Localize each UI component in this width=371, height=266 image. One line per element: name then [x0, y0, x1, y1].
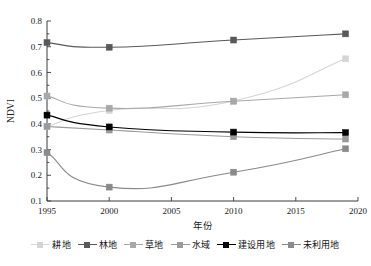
data-point-marker[interactable] — [106, 44, 112, 50]
y-tick-label: 0.8 — [31, 16, 43, 26]
series-line — [47, 34, 346, 47]
legend-label: 林地 — [99, 238, 117, 251]
legend-swatch-icon — [171, 244, 190, 245]
data-point-marker[interactable] — [231, 98, 237, 104]
legend-marker-icon — [177, 242, 183, 248]
legend-marker-icon — [37, 242, 43, 248]
series-line — [47, 149, 346, 189]
data-point-marker[interactable] — [44, 93, 50, 99]
legend-swatch-icon — [282, 244, 301, 245]
data-point-marker[interactable] — [44, 40, 50, 46]
legend-item-4[interactable]: 建设用地 — [217, 238, 275, 251]
series-草地 — [44, 92, 349, 111]
legend-item-1[interactable]: 林地 — [78, 238, 117, 251]
y-tick-label: 0.1 — [31, 196, 42, 206]
y-tick-label: 0.6 — [31, 68, 43, 78]
y-tick-label: 0.2 — [31, 170, 42, 180]
x-tick-label: 2015 — [287, 206, 306, 216]
x-axis-title: 年份 — [193, 220, 213, 231]
series-建设用地 — [44, 112, 349, 135]
data-point-marker[interactable] — [343, 31, 349, 37]
legend-item-5[interactable]: 未利用地 — [282, 238, 340, 251]
chart-legend: 耕地林地草地水域建设用地未利用地 — [0, 238, 371, 251]
legend-item-3[interactable]: 水域 — [171, 238, 210, 251]
legend-swatch-icon — [78, 244, 97, 245]
legend-marker-icon — [288, 242, 294, 248]
legend-swatch-icon — [31, 244, 50, 245]
y-axis-title: NDVI — [6, 99, 16, 123]
chart-root: 0.10.20.30.40.50.60.70.81995200020052010… — [0, 0, 371, 266]
legend-swatch-icon — [217, 244, 236, 245]
data-point-marker[interactable] — [343, 56, 349, 62]
data-point-marker[interactable] — [106, 184, 112, 190]
series-林地 — [44, 31, 349, 50]
data-point-marker[interactable] — [343, 92, 349, 98]
x-tick-label: 2000 — [100, 206, 119, 216]
data-point-marker[interactable] — [106, 105, 112, 111]
x-tick-label: 2005 — [162, 206, 181, 216]
data-point-marker[interactable] — [231, 129, 237, 135]
x-tick-label: 2010 — [225, 206, 244, 216]
data-point-marker[interactable] — [44, 123, 50, 129]
data-point-marker[interactable] — [231, 169, 237, 175]
data-point-marker[interactable] — [231, 37, 237, 43]
legend-label: 建设用地 — [238, 238, 275, 251]
series-line — [47, 59, 346, 127]
data-point-marker[interactable] — [343, 146, 349, 152]
series-未利用地 — [44, 146, 349, 190]
legend-label: 未利用地 — [303, 238, 340, 251]
data-point-marker[interactable] — [343, 130, 349, 136]
data-point-marker[interactable] — [106, 124, 112, 130]
y-tick-label: 0.3 — [31, 145, 43, 155]
series-line — [47, 115, 346, 133]
legend-swatch-icon — [124, 244, 143, 245]
y-tick-label: 0.7 — [31, 42, 43, 52]
legend-label: 草地 — [145, 238, 163, 251]
legend-marker-icon — [84, 242, 90, 248]
data-point-marker[interactable] — [44, 150, 50, 156]
series-耕地 — [44, 56, 349, 130]
x-tick-label: 2020 — [349, 206, 368, 216]
legend-marker-icon — [130, 242, 136, 248]
legend-label: 耕地 — [52, 238, 70, 251]
ndvi-line-chart: 0.10.20.30.40.50.60.70.81995200020052010… — [0, 0, 371, 238]
legend-label: 水域 — [192, 238, 210, 251]
x-tick-label: 1995 — [38, 206, 57, 216]
data-point-marker[interactable] — [44, 112, 50, 118]
y-tick-label: 0.4 — [31, 119, 43, 129]
y-tick-label: 0.5 — [31, 93, 43, 103]
legend-item-0[interactable]: 耕地 — [31, 238, 70, 251]
legend-item-2[interactable]: 草地 — [124, 238, 163, 251]
legend-marker-icon — [223, 242, 229, 248]
series-line — [47, 95, 346, 109]
data-point-marker[interactable] — [343, 136, 349, 142]
